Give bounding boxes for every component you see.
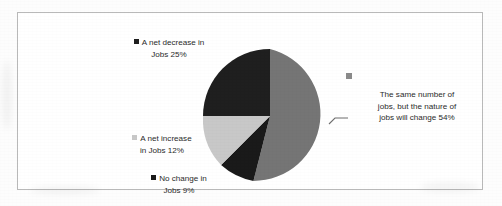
page-background: A net decrease in Jobs 25% A net increas… bbox=[0, 0, 502, 206]
pie-label-line-1: The same number of bbox=[355, 89, 479, 101]
pie-label-text-1: A net decrease in bbox=[142, 38, 205, 47]
pie-chart-svg bbox=[203, 49, 337, 183]
pie-label-line-2: in Jobs 12% bbox=[113, 145, 211, 157]
pie-label-no-change-in-jobs: No change in Jobs 9% bbox=[131, 173, 227, 196]
pie-label-line-2: Jobs 25% bbox=[117, 49, 221, 61]
pie-label-net-decrease-in-jobs: A net decrease in Jobs 25% bbox=[117, 37, 221, 60]
pie-label-line-1: A net increase bbox=[113, 133, 211, 145]
legend-marker-same-number bbox=[346, 73, 352, 79]
pie-label-text-1: No change in bbox=[159, 174, 207, 183]
pie-label-text-1: A net increase bbox=[140, 134, 191, 143]
pie-label-line-3: jobs will change 54% bbox=[355, 112, 479, 124]
legend-marker-no-change bbox=[151, 175, 156, 180]
chart-frame: A net decrease in Jobs 25% A net increas… bbox=[17, 12, 483, 190]
scan-smudge bbox=[2, 60, 12, 130]
pie-label-line-1: No change in bbox=[131, 173, 227, 185]
pie-label-line-1: A net decrease in bbox=[117, 37, 221, 49]
pie-chart[interactable] bbox=[203, 49, 337, 183]
leader-line-same-number-of-jobs bbox=[328, 113, 350, 127]
pie-label-line-2: Jobs 9% bbox=[131, 185, 227, 197]
pie-label-line-2: jobs, but the nature of bbox=[355, 101, 479, 113]
leader-line-svg bbox=[328, 113, 350, 127]
legend-marker-net-decrease bbox=[134, 39, 139, 44]
pie-label-net-increase-in-jobs: A net increase in Jobs 12% bbox=[113, 133, 211, 156]
legend-marker-net-increase bbox=[132, 135, 137, 140]
pie-label-same-number-of-jobs: The same number of jobs, but the nature … bbox=[355, 89, 479, 124]
